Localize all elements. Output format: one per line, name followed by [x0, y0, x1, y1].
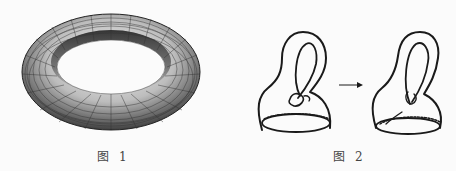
figure-1-caption-number: 1	[119, 150, 137, 164]
figure-2-caption-prefix: 图	[333, 150, 355, 164]
transformation-arrow	[339, 82, 363, 88]
klein-bottle-after	[373, 32, 441, 134]
figure-2-caption-number: 2	[355, 150, 373, 164]
figure-1-caption: 图1	[97, 147, 137, 164]
figure-2-caption: 图2	[333, 147, 373, 164]
torus-figure	[22, 14, 200, 130]
klein-bottle-before	[259, 32, 331, 132]
figure-canvas	[0, 0, 456, 171]
figure-1-caption-prefix: 图	[97, 150, 119, 164]
